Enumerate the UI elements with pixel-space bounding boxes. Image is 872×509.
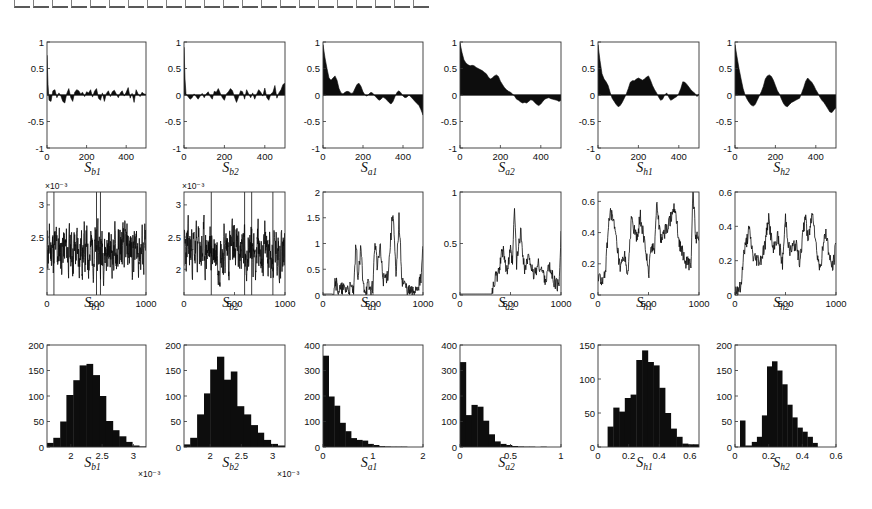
y-tick-label: 1: [590, 37, 595, 48]
x-tick-label: 0: [457, 151, 462, 162]
y-tick-label: 2: [315, 187, 320, 198]
x-tick-label: 0.6: [683, 450, 696, 461]
y-tick-label: 3: [39, 199, 44, 210]
x-tick-label: 3: [131, 450, 136, 461]
y-tick-label: -0.5: [716, 116, 732, 127]
x-tick-label: 1000: [825, 298, 846, 309]
x-tick-label: 2: [68, 450, 73, 461]
trace-line: [598, 191, 699, 285]
axis-scale-label: ×10⁻³: [45, 181, 67, 191]
histogram-bar: [251, 425, 258, 447]
panel-hist_h1: 05010015000.20.40.6Sh1: [579, 340, 699, 473]
y-tick-label: 100: [579, 374, 595, 385]
plot-area: [735, 45, 836, 113]
x-tick-label: 0.5: [504, 450, 517, 461]
plot-area: [598, 191, 699, 285]
x-tick-label: 2: [208, 450, 213, 461]
histogram-bar: [631, 395, 637, 447]
y-tick-label: -0.5: [304, 116, 320, 127]
series-label: Sb1: [84, 160, 101, 177]
plot-area: [608, 350, 700, 447]
x-tick-label: 400: [118, 151, 134, 162]
histogram-bar: [740, 421, 746, 448]
y-tick-label: 1: [452, 187, 457, 198]
histogram-bar: [807, 437, 813, 447]
histogram-bar: [197, 414, 204, 447]
x-tick-label: 0: [732, 298, 737, 309]
histogram-bar: [53, 438, 60, 447]
histogram-bar: [244, 414, 251, 447]
acf-area: [735, 45, 836, 113]
x-tick-label: 400: [671, 151, 687, 162]
y-tick-label: 1: [176, 37, 181, 48]
series-label: Sh2: [773, 455, 790, 472]
axis-scale-label: ×10⁻³: [138, 469, 160, 479]
y-tick-label: 0: [590, 442, 595, 453]
series-label: Sh1: [636, 160, 653, 177]
y-tick-label: 1: [315, 238, 320, 249]
x-tick-label: 400: [808, 151, 824, 162]
y-tick-label: -1: [724, 143, 732, 154]
y-tick-label: 150: [716, 365, 732, 376]
histogram-bar: [351, 438, 357, 447]
histogram-bar: [772, 361, 778, 447]
histogram-bar: [489, 434, 495, 447]
x-tick-label: 0: [181, 151, 186, 162]
histogram-bar: [100, 396, 107, 447]
y-tick-label: 300: [304, 365, 320, 376]
y-tick-label: 2: [176, 264, 181, 275]
y-tick-label: 100: [441, 416, 457, 427]
plot-area: [735, 213, 836, 295]
y-tick-label: 200: [441, 391, 457, 402]
x-tick-label: 3: [270, 450, 275, 461]
histogram-bar: [345, 431, 351, 447]
histogram-bar: [642, 350, 648, 447]
axes-box: [598, 192, 699, 295]
histogram-bar: [87, 364, 94, 447]
x-tick-label: 2.5: [235, 450, 248, 461]
y-tick-label: 200: [28, 340, 44, 351]
y-tick-label: 0: [39, 442, 44, 453]
y-tick-label: 0: [315, 90, 320, 101]
trace-line: [323, 213, 423, 295]
x-tick-label: 1: [558, 450, 563, 461]
histogram-bar: [66, 395, 73, 447]
histogram-bar: [677, 437, 683, 447]
series-label: Sb2: [222, 160, 239, 177]
y-tick-label: 0: [176, 90, 181, 101]
axis-scale-label: ×10⁻³: [182, 181, 204, 191]
x-tick-label: 0: [595, 298, 600, 309]
histogram-bar: [495, 441, 501, 447]
y-tick-label: 0.5: [582, 63, 595, 74]
trace-line: [184, 215, 285, 287]
panel-trace_a1: 00.511.5205001000Sa1: [307, 187, 434, 313]
y-tick-label: 0.6: [719, 187, 732, 198]
series-label: Sa1: [361, 160, 378, 177]
y-tick-label: 100: [716, 391, 732, 402]
plot-area: [47, 192, 146, 295]
panel-hist_a1: 0100200300400012Sa1: [304, 340, 426, 473]
histogram-bar: [802, 432, 807, 447]
histogram-bar: [217, 357, 224, 447]
y-tick-label: 0.2: [582, 258, 595, 269]
y-tick-label: -1: [587, 143, 595, 154]
histogram-bar: [659, 388, 665, 447]
x-tick-label: 1000: [550, 298, 571, 309]
y-tick-label: 200: [716, 340, 732, 351]
histogram-bar: [80, 365, 87, 447]
histogram-bar: [466, 415, 472, 447]
acf-area: [460, 43, 561, 106]
panel-acf_h1: -1-0.500.510200400Sh1: [579, 37, 699, 178]
y-tick-label: 0: [315, 290, 320, 301]
histogram-bar: [323, 356, 329, 447]
x-tick-label: 0: [44, 151, 49, 162]
y-tick-label: -1: [173, 143, 181, 154]
x-tick-label: 2.5: [96, 450, 109, 461]
y-tick-label: 150: [165, 365, 181, 376]
x-tick-label: 0.4: [796, 450, 809, 461]
panel-hist_b2: 05010015020022.53×10⁻³Sb2: [165, 340, 299, 480]
y-tick-label: 1: [452, 37, 457, 48]
histogram-bar: [47, 443, 54, 447]
y-tick-label: 0: [452, 290, 457, 301]
plot-area: [47, 55, 146, 103]
